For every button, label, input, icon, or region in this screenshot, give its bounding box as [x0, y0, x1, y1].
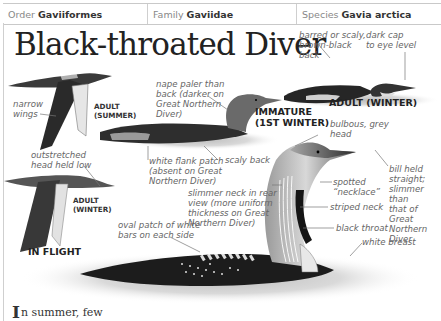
note-black-throat: black throat	[336, 223, 388, 233]
intro-text: n summer, few	[21, 306, 103, 319]
note-nape-paler: nape paler thanback (darker on Great Nor…	[156, 79, 224, 119]
note-striped-neck: striped neck	[330, 202, 383, 212]
drop-cap: I	[12, 302, 20, 321]
note-scaly-back: scaly back	[225, 155, 270, 165]
immature-caption: IMMATURE (1ST WINTER)	[255, 106, 329, 128]
note-white-flank-patch: white flank patch(absent on Great Northe…	[149, 156, 224, 186]
note-narrow-wings: narrowwings	[13, 99, 43, 119]
in-flight-label: IN FLIGHT	[28, 246, 81, 257]
note-oval-patch: oval patch of whitebars on each side	[118, 220, 200, 240]
intro-paragraph: In summer, few	[12, 302, 103, 321]
note-barred-back: barred or scaly,brown-black back	[299, 30, 366, 60]
note-outstretched-head: outstretchedhead held low	[31, 150, 91, 170]
note-dark-cap: dark capto eye level	[366, 30, 416, 50]
note-bill-held-straight: bill heldstraight; slimmer thanthat of G…	[389, 164, 441, 244]
adult-winter-caption: ADULT (WINTER)	[329, 97, 417, 108]
note-bulbous-head: bulbous, greyhead	[330, 119, 389, 139]
flight-summer-caption: ADULT (SUMMER)	[94, 102, 136, 120]
note-white-breast: white breast	[362, 237, 416, 247]
note-slimmer-neck: slimmer neck in rearview (more uniform t…	[188, 188, 277, 228]
note-spotted-necklace: spotted“necklace”	[333, 177, 380, 197]
flight-winter-caption: ADULT (WINTER)	[73, 196, 112, 214]
